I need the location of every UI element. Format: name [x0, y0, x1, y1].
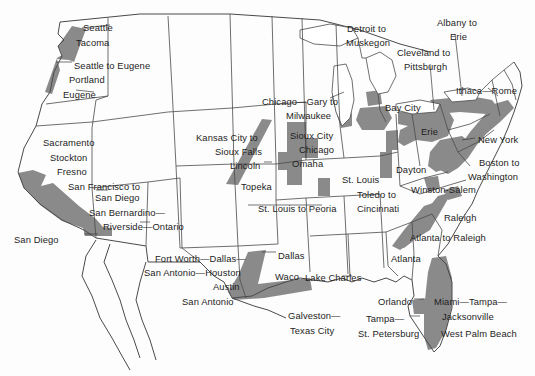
label-cleveland-to-line: Cleveland to — [397, 47, 450, 59]
label-erie-corridor-end-line: Erie — [450, 31, 467, 43]
label-muskegon-line: Muskegon — [346, 37, 390, 49]
label-erie-corridor-end: Erie — [450, 31, 467, 43]
coast-baja-east — [104, 244, 140, 358]
label-winston-salem: Winston-Salem — [411, 184, 476, 196]
label-waco-line: Waco — [275, 271, 299, 283]
label-albany-to-line: Albany to — [437, 17, 477, 29]
label-texas-city-line: Texas City — [290, 325, 334, 337]
label-stockton: Stockton — [50, 152, 87, 164]
label-st-louis-to-peoria-line: St. Louis to Peoria — [258, 203, 337, 215]
label-chicago-gary-to-line: Chicago—Gary to — [262, 96, 338, 108]
label-milwaukee: Milwaukee — [286, 110, 331, 122]
label-milwaukee-line: Milwaukee — [286, 110, 331, 122]
label-erie: Erie — [421, 126, 438, 138]
label-fresno-line: Fresno — [57, 166, 87, 178]
label-tacoma-line: Tacoma — [76, 37, 109, 49]
label-atlanta: Atlanta — [391, 253, 421, 265]
label-tampa-line: Tampa— — [366, 313, 404, 325]
label-detroit-to: Detroit to — [347, 23, 386, 35]
label-atlanta-to-raleigh-line: Atlanta to Raleigh — [410, 232, 486, 244]
label-san-diego-corridor-end-line: San Diego — [95, 192, 140, 204]
label-eugene-line: Eugene — [63, 89, 96, 101]
label-cleveland-to: Cleveland to — [397, 47, 450, 59]
label-sioux-falls-line: Sioux Falls — [215, 146, 262, 158]
label-seattle-line: Seattle — [83, 22, 113, 34]
label-miami-tampa-line: Miami—Tampa— — [434, 296, 507, 308]
label-st-petersburg-line: St. Petersburg — [358, 328, 419, 340]
label-portland: Portland — [69, 74, 105, 86]
label-san-francisco-to-san-diego: San Francisco to — [68, 181, 140, 193]
label-st-louis-line: St. Louis — [342, 174, 379, 186]
label-galveston-line: Galveston— — [288, 310, 341, 322]
label-omaha-line: Omaha — [292, 158, 323, 170]
label-orlando-line: Orlando — [378, 296, 412, 308]
label-orlando: Orlando — [378, 296, 412, 308]
label-stockton-line: Stockton — [50, 152, 87, 164]
label-seattle-to-eugene-line: Seattle to Eugene — [74, 60, 150, 72]
label-san-francisco-to-san-diego-line: San Francisco to — [68, 181, 140, 193]
label-raleigh: Raleigh — [444, 212, 477, 224]
label-bay-city: Bay City — [385, 102, 421, 114]
label-pittsburgh-line: Pittsburgh — [404, 61, 447, 73]
label-new-york: New York — [478, 134, 518, 146]
label-washington-line: Washington — [468, 171, 518, 183]
label-austin-line: Austin — [213, 281, 240, 293]
label-winston-salem-line: Winston-Salem — [411, 184, 476, 196]
label-eugene: Eugene — [63, 89, 96, 101]
label-chicago-line: Chicago — [299, 144, 334, 156]
label-chicago-gary-to: Chicago—Gary to — [262, 96, 338, 108]
label-washington: Washington — [468, 171, 518, 183]
label-boston-to-line: Boston to — [479, 157, 520, 169]
label-san-antonio-houston: San Antonio—Houston — [144, 267, 241, 279]
label-waco: Waco — [275, 271, 299, 283]
label-new-york-line: New York — [478, 134, 518, 146]
label-lake-charles: Lake Charles — [305, 272, 361, 284]
label-pittsburgh: Pittsburgh — [404, 61, 447, 73]
corridor-st-louis-peoria — [318, 178, 330, 196]
label-st-louis: St. Louis — [342, 174, 379, 186]
label-topeka-line: Topeka — [241, 181, 272, 193]
label-sioux-city: Sioux City — [290, 130, 333, 142]
label-san-bernardino: San Bernardino— — [89, 207, 165, 219]
label-detroit-to-line: Detroit to — [347, 23, 386, 35]
label-san-bernardino-line: San Bernardino— — [89, 207, 165, 219]
label-west-palm-beach: West Palm Beach — [441, 328, 517, 340]
corridor-sf-san-diego — [18, 170, 103, 236]
label-jacksonville-line: Jacksonville — [442, 311, 494, 323]
label-atlanta-line: Atlanta — [391, 253, 421, 265]
label-fort-worth-dallas-line: Fort Worth—Dallas— — [155, 253, 246, 265]
label-st-louis-to-peoria: St. Louis to Peoria — [258, 203, 337, 215]
label-muskegon: Muskegon — [346, 37, 390, 49]
label-tacoma: Tacoma — [76, 37, 109, 49]
label-texas-city: Texas City — [290, 325, 334, 337]
label-riverside-ontario: Riverside—Ontario — [103, 221, 184, 233]
label-erie-line: Erie — [421, 126, 438, 138]
label-sioux-falls: Sioux Falls — [215, 146, 262, 158]
label-riverside-ontario-line: Riverside—Ontario — [103, 221, 184, 233]
label-jacksonville: Jacksonville — [442, 311, 494, 323]
label-ithaca-rome: Ithaca—Rome — [456, 85, 517, 97]
label-st-petersburg: St. Petersburg — [358, 328, 419, 340]
label-seattle: Seattle — [83, 22, 113, 34]
label-tampa: Tampa— — [366, 313, 404, 325]
label-dallas-line: Dallas — [278, 250, 305, 262]
label-fort-worth-dallas: Fort Worth—Dallas— — [155, 253, 246, 265]
label-ithaca-rome-line: Ithaca—Rome — [456, 85, 517, 97]
label-kansas-city-to-line: Kansas City to — [196, 132, 258, 144]
label-austin: Austin — [213, 281, 240, 293]
label-san-antonio: San Antonio — [182, 296, 234, 308]
label-omaha: Omaha — [292, 158, 323, 170]
coast-baja — [82, 240, 130, 370]
lake-huron — [366, 52, 396, 94]
label-kansas-city-to: Kansas City to — [196, 132, 258, 144]
label-san-diego: San Diego — [14, 234, 59, 246]
label-seattle-to-eugene: Seattle to Eugene — [74, 60, 150, 72]
label-lincoln-line: Lincoln — [230, 160, 260, 172]
label-sacramento-line: Sacramento — [43, 137, 95, 149]
label-raleigh-line: Raleigh — [444, 212, 477, 224]
label-san-antonio-line: San Antonio — [182, 296, 234, 308]
label-fresno: Fresno — [57, 166, 87, 178]
label-san-antonio-houston-line: San Antonio—Houston — [144, 267, 241, 279]
label-west-palm-beach-line: West Palm Beach — [441, 328, 517, 340]
label-chicago: Chicago — [299, 144, 334, 156]
